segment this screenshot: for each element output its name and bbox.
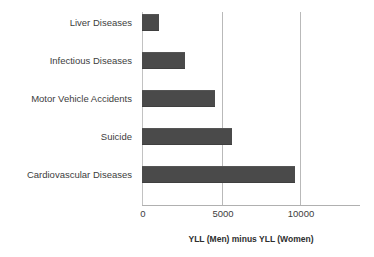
category-label-cardiovascular-diseases: Cardiovascular Diseases bbox=[0, 169, 132, 180]
bar-suicide bbox=[142, 128, 232, 145]
bar-liver-diseases bbox=[142, 14, 159, 31]
category-label-suicide: Suicide bbox=[0, 131, 132, 142]
x-axis-title: YLL (Men) minus YLL (Women) bbox=[142, 234, 360, 244]
value-axis-baseline bbox=[142, 205, 360, 206]
tick-label-5000: 5000 bbox=[212, 208, 233, 220]
plot-area bbox=[142, 12, 360, 205]
bar-chart: Liver Diseases Infectious Diseases Motor… bbox=[0, 0, 374, 257]
tick-label-0: 0 bbox=[140, 208, 145, 220]
category-label-motor-vehicle-accidents: Motor Vehicle Accidents bbox=[0, 93, 132, 104]
tick-label-10000: 10000 bbox=[288, 208, 314, 220]
bar-cardiovascular-diseases bbox=[142, 166, 295, 183]
bar-infectious-diseases bbox=[142, 52, 185, 69]
value-axis: 0 5000 10000 bbox=[0, 208, 374, 224]
bar-motor-vehicle-accidents bbox=[142, 90, 215, 107]
category-axis: Liver Diseases Infectious Diseases Motor… bbox=[0, 12, 138, 205]
gridline-10000 bbox=[300, 12, 301, 205]
category-label-infectious-diseases: Infectious Diseases bbox=[0, 55, 132, 66]
category-label-liver-diseases: Liver Diseases bbox=[0, 17, 132, 28]
